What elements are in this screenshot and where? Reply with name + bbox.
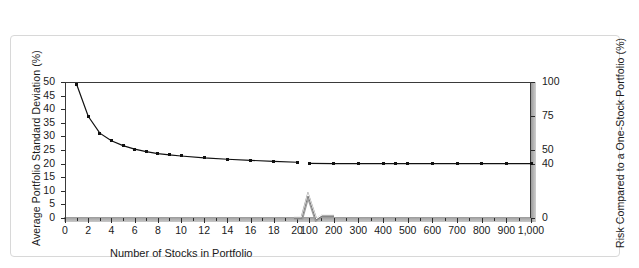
data-point: [332, 162, 335, 165]
data-point: [156, 152, 159, 155]
data-point: [249, 159, 252, 162]
data-point: [308, 162, 311, 165]
data-point: [505, 162, 508, 165]
y-tick-label-left: 25: [35, 143, 55, 155]
y-tick-label-left: 0: [35, 211, 55, 223]
data-point: [226, 158, 229, 161]
data-point: [382, 162, 385, 165]
y-tick-label-right: 50: [542, 143, 566, 155]
data-point: [296, 161, 299, 164]
y-tick-label-right: 100: [542, 75, 566, 87]
data-point: [406, 162, 409, 165]
y-tick-label-left: 50: [35, 75, 55, 87]
axis-break-zigzag-icon: [294, 192, 334, 222]
series-line: [77, 84, 297, 162]
y-tick-label-left: 20: [35, 157, 55, 169]
data-point: [456, 162, 459, 165]
y-tick-label-left: 10: [35, 184, 55, 196]
data-point: [133, 148, 136, 151]
y-tick-label-left: 30: [35, 129, 55, 141]
y-tick-label-left: 5: [35, 197, 55, 209]
data-point: [203, 156, 206, 159]
data-point: [168, 153, 171, 156]
y-tick-label-left: 40: [35, 102, 55, 114]
x-axis-title: Number of Stocks in Portfolio: [110, 247, 252, 259]
y-tick-label-left: 15: [35, 170, 55, 182]
data-point: [75, 83, 78, 86]
data-point: [110, 139, 113, 142]
data-point: [357, 162, 360, 165]
data-point: [530, 162, 533, 165]
y-tick-label-left: 35: [35, 116, 55, 128]
data-point: [122, 144, 125, 147]
y-tick-label-right: 0: [542, 211, 566, 223]
data-point: [98, 132, 101, 135]
y-tick-label-right: 40: [542, 157, 566, 169]
data-point: [272, 160, 275, 163]
data-point: [180, 154, 183, 157]
data-point: [145, 150, 148, 153]
y-axis-right-title: Risk Compared to a One-Stock Portfolio (…: [614, 38, 626, 248]
data-point: [480, 162, 483, 165]
data-point: [87, 115, 90, 118]
y-tick-label-left: 45: [35, 89, 55, 101]
x-tick-label: 1,000: [516, 224, 546, 236]
data-point: [394, 162, 397, 165]
data-point: [431, 162, 434, 165]
y-tick-label-right: 75: [542, 109, 566, 121]
